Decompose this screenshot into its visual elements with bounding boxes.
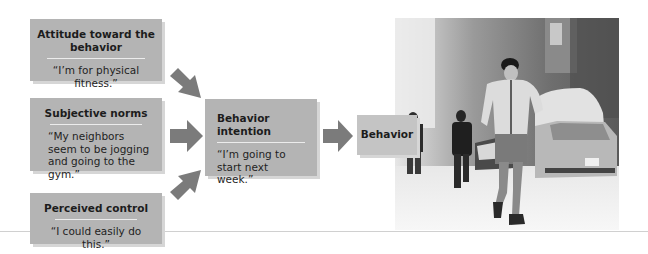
behavior-intention-divider	[217, 142, 305, 143]
arrow-down-right-icon	[168, 68, 204, 100]
behavior-intention-box: Behavior intention “I’m going to start n…	[205, 99, 317, 176]
subjective-norms-box: Subjective norms “My neighbors seem to b…	[30, 98, 162, 171]
arrow-up-right-icon	[168, 168, 204, 200]
jogger-photo-illustration	[395, 18, 619, 230]
attitude-box: Attitude toward the behavior “I’m for ph…	[30, 19, 162, 81]
behavior-title: Behavior	[357, 128, 417, 141]
attitude-divider	[47, 58, 145, 59]
perceived-control-title: Perceived control	[36, 202, 156, 215]
perceived-control-divider	[55, 219, 137, 220]
perceived-control-box: Perceived control “I could easily do thi…	[30, 193, 162, 244]
subjective-norms-quote: “My neighbors seem to be jogging and goi…	[38, 130, 154, 180]
perceived-control-quote: “I could easily do this.”	[36, 225, 156, 250]
attitude-title: Attitude toward the behavior	[36, 28, 156, 54]
jogger-photo	[395, 18, 619, 185]
behavior-intention-title: Behavior intention	[217, 112, 307, 138]
attitude-quote: “I’m for physical fitness.”	[36, 64, 156, 89]
subjective-norms-divider	[50, 124, 142, 125]
arrow-right-icon	[170, 120, 206, 152]
behavior-intention-quote: “I’m going to start next week.”	[217, 148, 307, 186]
subjective-norms-title: Subjective norms	[38, 107, 154, 120]
arrow-right-icon	[323, 120, 359, 152]
behavior-box: Behavior	[357, 115, 417, 155]
